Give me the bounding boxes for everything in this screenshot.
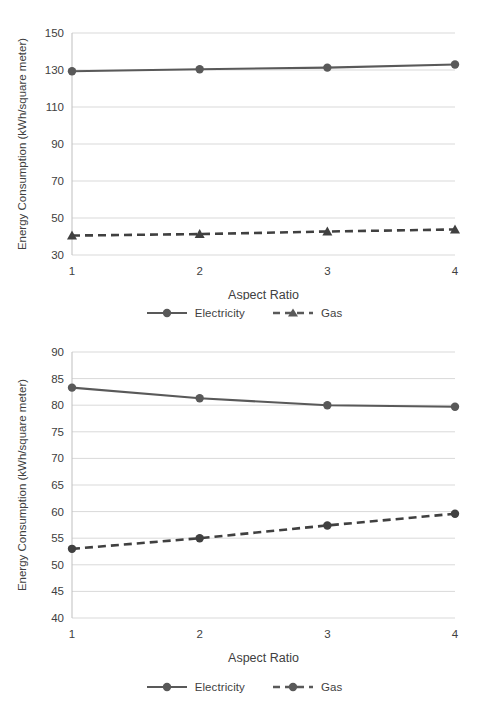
y-axis-tick-label: 50 [51, 559, 64, 571]
legend-label: Electricity [195, 307, 245, 319]
series-line-gas [72, 229, 455, 235]
legend-swatch-circle-icon [145, 681, 189, 693]
data-point-marker [323, 63, 331, 71]
data-point-marker [195, 394, 203, 402]
legend-marker-circle-icon [289, 683, 297, 691]
y-axis-tick-label: 65 [51, 479, 64, 491]
legend-swatch-triangle-icon [271, 307, 315, 319]
y-axis-tick-label: 40 [51, 612, 64, 624]
data-point-marker [195, 65, 203, 73]
legend-label: Electricity [195, 681, 245, 693]
legend-marker-circle-icon [162, 309, 170, 317]
x-axis-tick-label: 2 [196, 265, 202, 277]
y-axis-tick-label: 130 [45, 64, 64, 76]
data-point-marker [451, 403, 459, 411]
legend-entry-gas: Gas [271, 681, 342, 693]
y-axis-tick-label: 45 [51, 585, 64, 597]
x-axis-tick-label: 4 [452, 628, 459, 640]
legend-entry-gas: Gas [271, 307, 342, 319]
x-axis-tick-label: 2 [196, 628, 202, 640]
y-axis-tick-label: 70 [51, 452, 64, 464]
figure-page: 305070901101301501234Aspect RatioEnergy … [0, 0, 487, 716]
data-point-marker [68, 67, 76, 75]
y-axis-tick-label: 150 [45, 27, 64, 39]
legend-entry-electricity: Electricity [145, 307, 245, 319]
chart-plot-top: 305070901101301501234Aspect RatioEnergy … [0, 0, 487, 300]
series-line-gas [72, 514, 455, 549]
x-axis-title: Aspect Ratio [228, 651, 299, 665]
legend-entry-electricity: Electricity [145, 681, 245, 693]
data-point-marker [323, 521, 331, 529]
x-axis-tick-label: 4 [452, 265, 459, 277]
y-axis-title: Energy Consumption (kWh/square meter) [16, 38, 28, 250]
y-axis-tick-label: 110 [46, 101, 64, 113]
y-axis-tick-label: 60 [51, 506, 64, 518]
legend-label: Gas [321, 307, 342, 319]
x-axis-tick-label: 3 [324, 628, 330, 640]
y-axis-tick-label: 80 [51, 399, 64, 411]
y-axis-tick-label: 30 [51, 249, 64, 261]
x-axis-tick-label: 1 [69, 265, 75, 277]
y-axis-tick-label: 70 [51, 175, 64, 187]
data-point-marker [451, 60, 459, 68]
data-point-marker [195, 534, 203, 542]
legend-swatch-circle-icon [145, 307, 189, 319]
data-point-marker [451, 510, 459, 518]
y-axis-tick-label: 55 [51, 532, 64, 544]
data-point-marker [68, 545, 76, 553]
data-point-marker [68, 383, 76, 391]
legend-marker-circle-icon [162, 683, 170, 691]
x-axis-tick-label: 3 [324, 265, 330, 277]
line-chart-top: 305070901101301501234Aspect RatioEnergy … [0, 0, 487, 300]
y-axis-title: Energy Consumption (kWh/square meter) [16, 379, 28, 591]
chart-panel-bottom: 40455055606570758085901234Aspect RatioEn… [0, 340, 487, 716]
y-axis-tick-label: 90 [51, 138, 64, 150]
y-axis-tick-label: 50 [51, 212, 64, 224]
chart-plot-bottom: 40455055606570758085901234Aspect RatioEn… [0, 340, 487, 676]
series-line-electricity [72, 388, 455, 407]
chart-legend-bottom: ElectricityGas [0, 670, 487, 704]
legend-swatch-circle-icon [271, 681, 315, 693]
data-point-marker [323, 401, 331, 409]
chart-panel-top: 305070901101301501234Aspect RatioEnergy … [0, 0, 487, 340]
x-axis-tick-label: 1 [69, 628, 75, 640]
y-axis-tick-label: 90 [51, 346, 64, 358]
y-axis-tick-label: 85 [51, 373, 64, 385]
chart-legend-top: ElectricityGas [0, 296, 487, 330]
legend-label: Gas [321, 681, 342, 693]
y-axis-tick-label: 75 [51, 426, 64, 438]
line-chart-bottom: 40455055606570758085901234Aspect RatioEn… [0, 340, 487, 676]
